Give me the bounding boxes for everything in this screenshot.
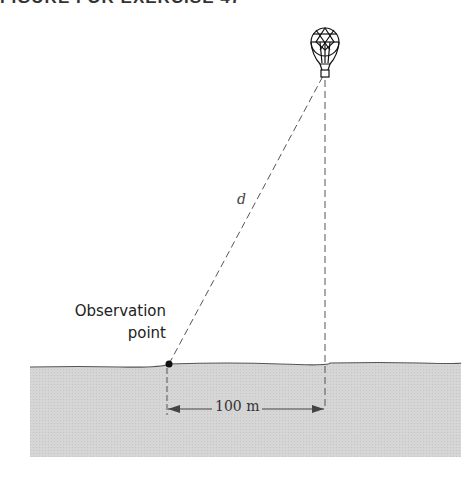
observation-label-line1: Observation — [30, 300, 166, 322]
observation-point-label: Observation point — [30, 300, 166, 344]
observation-point-dot — [166, 361, 173, 368]
hot-air-balloon-icon — [311, 28, 339, 77]
distance-d-label: d — [237, 191, 246, 207]
line-of-sight-d — [169, 76, 323, 364]
baseline-distance-label: 100 m — [212, 398, 262, 414]
observation-label-line2: point — [30, 322, 166, 344]
